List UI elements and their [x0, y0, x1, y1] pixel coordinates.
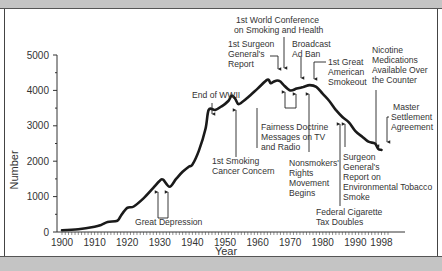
svg-text:Messages on TV: Messages on TV [261, 132, 326, 142]
svg-text:Begins: Begins [289, 188, 315, 198]
x-tick-label: 1990 [344, 237, 367, 248]
svg-text:Broadcast: Broadcast [292, 39, 331, 49]
y-tick-label: 1000 [27, 191, 50, 202]
svg-text:Environmental Tobacco: Environmental Tobacco [343, 182, 432, 192]
svg-text:Rights: Rights [289, 168, 313, 178]
svg-text:Smokeout: Smokeout [328, 77, 367, 87]
annotation-ets-report: Surgeon General's Report on Environmenta… [343, 124, 432, 202]
y-tick-label: 4000 [27, 85, 50, 96]
annotation-surgeon-general: 1st Surgeon General's Report [228, 39, 278, 69]
annotation-master-settlement: Master Settlement Agreement [387, 102, 434, 142]
svg-text:Fairness Doctrine: Fairness Doctrine [261, 122, 329, 132]
svg-text:the Counter: the Counter [372, 75, 417, 85]
svg-text:Surgeon: Surgeon [343, 152, 376, 162]
svg-text:and Radio: and Radio [261, 142, 300, 152]
x-tick-label: 1930 [149, 237, 172, 248]
svg-text:Smoke: Smoke [343, 192, 370, 202]
svg-text:General's: General's [343, 162, 380, 172]
svg-text:Movement: Movement [289, 178, 330, 188]
svg-text:1st Surgeon: 1st Surgeon [228, 39, 275, 49]
x-tick-label: 1970 [279, 237, 302, 248]
svg-text:American: American [328, 67, 365, 77]
y-tick-label: 5000 [27, 50, 50, 61]
svg-text:1st World Conference: 1st World Conference [236, 15, 319, 25]
annotation-great-american-smokeout: 1st Great American Smokeout [314, 57, 367, 87]
y-tick-label: 0 [43, 227, 49, 238]
x-tick-label: 1998 [370, 237, 393, 248]
svg-text:Nonsmokers': Nonsmokers' [289, 158, 339, 168]
annotation-fairness-doctrine: Fairness Doctrine Messages on TV and Rad… [257, 92, 329, 152]
svg-text:Available Over: Available Over [372, 65, 428, 75]
svg-text:General's: General's [228, 49, 265, 59]
x-tick-label: 1920 [116, 237, 139, 248]
annotation-broadcast-ad-ban: Broadcast Ad Ban [292, 39, 331, 78]
svg-text:1st Great: 1st Great [328, 57, 364, 67]
x-tick-label: 1910 [83, 237, 106, 248]
svg-text:End of WWII: End of WWII [192, 90, 240, 100]
x-axis-title: Year [215, 245, 238, 257]
x-axis: 1900191019201930194019501960197019801990… [51, 232, 405, 257]
svg-text:Nicotine: Nicotine [372, 45, 403, 55]
svg-text:Agreement: Agreement [391, 122, 434, 132]
x-tick-label: 1940 [181, 237, 204, 248]
svg-text:Cancer Concern: Cancer Concern [212, 166, 275, 176]
svg-text:Ad Ban: Ad Ban [292, 49, 320, 59]
svg-text:Medications: Medications [372, 55, 418, 65]
svg-text:1st Smoking: 1st Smoking [212, 156, 260, 166]
x-tick-label: 1960 [246, 237, 269, 248]
svg-text:on Smoking and Health: on Smoking and Health [234, 25, 324, 35]
svg-text:Federal Cigarette: Federal Cigarette [316, 207, 383, 217]
svg-text:Settlement: Settlement [391, 112, 433, 122]
y-tick-label: 3000 [27, 120, 50, 131]
svg-text:Great Depression: Great Depression [135, 217, 203, 227]
x-tick-label: 1980 [312, 237, 335, 248]
y-axis: 010002000300040005000 Number [8, 50, 57, 238]
svg-text:Report: Report [228, 59, 254, 69]
svg-text:Master: Master [393, 102, 419, 112]
svg-text:Report on: Report on [343, 172, 381, 182]
x-tick-label: 1900 [51, 237, 74, 248]
svg-text:Tax Doubles: Tax Doubles [316, 217, 363, 227]
y-axis-title: Number [8, 150, 20, 189]
y-tick-label: 2000 [27, 156, 50, 167]
